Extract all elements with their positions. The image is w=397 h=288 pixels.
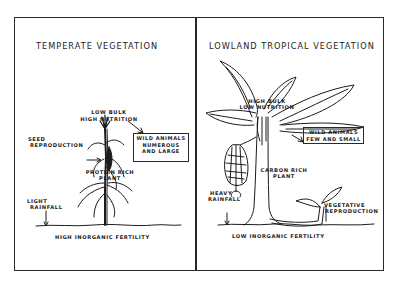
tropical-title: LOWLAND TROPICAL VEGETATION [209, 42, 375, 51]
animals-box-line1: WILD ANIMALS [136, 135, 186, 142]
low-nutrition-label: LOW NUTRITION [238, 105, 296, 111]
rainfall-label: RAINFALL [30, 205, 63, 211]
wild-animals-numerous-box: WILD ANIMALS NUMEROUS AND LARGE [133, 133, 189, 162]
low-fertility-label: LOW INORGANIC FERTILITY [232, 234, 325, 240]
reproduction-label: REPRODUCTION [325, 209, 379, 215]
rainfall-label: RAINFALL [208, 197, 241, 203]
plant-label: PLANT [254, 174, 314, 180]
temperate-title: TEMPERATE VEGETATION [36, 42, 158, 51]
high-nutrition-label: HIGH NUTRITION [78, 117, 140, 123]
plant-label: PLANT [80, 176, 140, 182]
wild-animals-few-box: WILD ANIMALS FEW AND SMALL [303, 127, 364, 144]
animals-box-line3: AND LARGE [136, 148, 186, 155]
temperate-panel: TEMPERATE VEGETATION LOW BULK HIGH NUTRI… [14, 17, 195, 271]
animals-box-line1: WILD ANIMALS [306, 129, 361, 136]
reproduction-label: REPRODUCTION [30, 143, 84, 149]
animals-box-line2: FEW AND SMALL [306, 136, 361, 143]
high-fertility-label: HIGH INORGANIC FERTILITY [55, 235, 150, 241]
tropical-panel: LOWLAND TROPICAL VEGETATION HIGH BULK LO… [196, 17, 384, 271]
